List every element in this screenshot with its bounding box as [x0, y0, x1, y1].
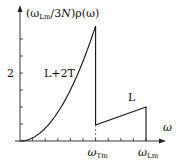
annotation-l: L — [128, 91, 136, 104]
y-tick-label-2: 2 — [7, 67, 14, 80]
dos-curves — [20, 26, 146, 141]
curve-l — [96, 107, 146, 141]
annotation-l-plus-2t: L+2T — [44, 67, 76, 80]
x-axis-arrow-icon — [159, 139, 166, 144]
annotations: L+2TL — [44, 67, 136, 104]
x-tick-label-omega-lm: ωLm — [138, 146, 159, 160]
curve-l-plus-2t — [20, 26, 96, 141]
y-axis-arrow-icon — [18, 5, 23, 12]
x-axis — [15, 138, 166, 144]
y-axis — [18, 5, 24, 141]
y-axis-label: (ωLm/3N)ρ(ω) — [26, 7, 99, 21]
x-axis-label: ω — [163, 121, 172, 134]
dos-chart: (ωLm/3N)ρ(ω) ω 2 ωTmωLm L+2TL — [0, 0, 178, 161]
x-tick-labels: ωTmωLm — [88, 146, 159, 160]
x-tick-label-omega-tm: ωTm — [88, 146, 109, 160]
